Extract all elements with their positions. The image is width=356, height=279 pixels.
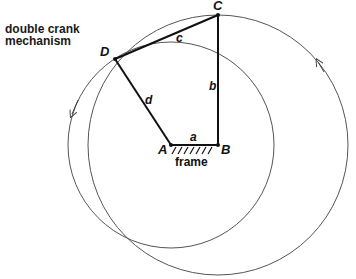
mechanism-diagram: A B C D a b c d frame [0,0,356,279]
label-point-C: C [213,0,223,13]
label-link-c: c [176,31,183,45]
label-point-B: B [221,142,230,157]
joint-D [113,57,117,61]
label-point-A: A [157,142,167,157]
link-d [115,59,171,145]
joint-B [216,143,220,147]
label-link-a: a [190,130,197,144]
label-link-b: b [209,79,216,93]
link-c [115,15,218,59]
left-rotation-arrow-icon [72,100,78,114]
label-point-D: D [100,44,110,59]
label-link-d: d [145,93,153,107]
label-frame: frame [175,155,208,169]
right-rotation-arrow-icon [318,62,324,72]
frame-hatching [172,147,212,154]
joint-C [216,13,220,17]
joint-A [169,143,173,147]
